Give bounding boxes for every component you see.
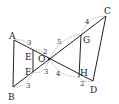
label-D: D (90, 85, 97, 95)
length-GC: 4 (85, 18, 90, 26)
length-EO: 2 (43, 48, 47, 56)
label-B: B (8, 92, 15, 102)
label-A: A (8, 31, 16, 41)
label-C: C (104, 6, 111, 16)
dim-OG (50, 34, 81, 58)
label-F: F (25, 67, 31, 77)
length-OG: 5 (57, 38, 61, 46)
segment-CD (93, 16, 106, 81)
label-H: H (80, 68, 88, 78)
dim-OH (50, 60, 79, 77)
label-E: E (25, 52, 32, 62)
label-G: G (83, 35, 90, 45)
length-OH: 4 (56, 70, 61, 78)
diagram-canvas: A B C D O E F G H 3 2 5 4 3 3 4 2 (0, 0, 119, 104)
point-O-dot (48, 58, 50, 60)
segment-AB (13, 40, 14, 87)
geometry-diagram: A B C D O E F G H 3 2 5 4 3 3 4 2 (0, 0, 119, 104)
length-BF: 3 (26, 82, 30, 90)
length-HD: 2 (80, 80, 84, 88)
length-AE: 3 (27, 39, 31, 47)
length-FO: 3 (44, 68, 48, 76)
